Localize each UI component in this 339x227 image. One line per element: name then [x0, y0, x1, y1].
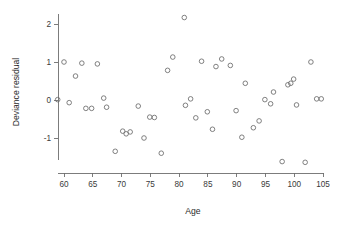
data-point — [291, 77, 296, 82]
data-point — [104, 105, 109, 110]
data-point — [199, 59, 204, 64]
x-tick-label: 65 — [88, 180, 98, 189]
data-point — [268, 102, 273, 107]
data-point — [165, 68, 170, 73]
y-tick-label: 0 — [46, 96, 51, 105]
data-point — [188, 97, 193, 102]
plot-canvas: -1012 6065707580859095100105 Age Devianc… — [0, 0, 339, 227]
data-point — [257, 119, 262, 124]
x-tick-label: 80 — [175, 180, 185, 189]
x-tick-label: 70 — [117, 180, 127, 189]
data-point — [101, 96, 106, 101]
data-point — [219, 57, 224, 62]
y-tick-label: 2 — [46, 20, 51, 29]
x-tick-label: 100 — [287, 180, 301, 189]
data-point — [142, 136, 147, 141]
data-point — [84, 106, 89, 111]
data-points-layer — [55, 15, 323, 164]
data-point — [319, 97, 324, 102]
data-point — [136, 104, 141, 109]
data-point — [62, 60, 67, 65]
data-point — [67, 100, 72, 105]
x-axis-title: Age — [185, 206, 201, 216]
x-tick-label: 105 — [316, 180, 330, 189]
data-point — [280, 159, 285, 164]
data-point — [214, 64, 219, 69]
scatter-plot-figure: -1012 6065707580859095100105 Age Devianc… — [0, 0, 339, 227]
data-point — [80, 61, 85, 66]
data-point — [240, 135, 245, 140]
data-point — [128, 130, 133, 135]
data-point — [89, 106, 94, 111]
data-point — [309, 60, 314, 65]
data-point — [194, 116, 199, 121]
x-tick-label: 90 — [232, 180, 242, 189]
x-tick-label: 60 — [59, 180, 69, 189]
data-point — [95, 62, 100, 67]
data-point — [152, 115, 157, 120]
data-point — [263, 97, 268, 102]
data-point — [210, 127, 215, 132]
data-point — [314, 97, 319, 102]
y-tick-label: 1 — [46, 58, 51, 67]
data-point — [73, 74, 78, 79]
data-point — [228, 63, 233, 68]
data-point — [251, 125, 256, 130]
x-tick-label: 95 — [261, 180, 271, 189]
data-point — [113, 149, 118, 154]
data-point — [294, 103, 299, 108]
y-axis-title: Deviance residual — [11, 58, 21, 126]
y-tick-label: -1 — [44, 134, 52, 143]
data-point — [159, 151, 164, 156]
data-point — [271, 90, 276, 95]
x-tick-label: 75 — [146, 180, 156, 189]
data-point — [182, 15, 187, 20]
data-point — [183, 103, 188, 108]
data-point — [243, 81, 248, 86]
data-point — [234, 108, 239, 113]
data-point — [205, 109, 210, 114]
data-point — [147, 115, 152, 120]
data-point — [170, 55, 175, 60]
data-point — [303, 160, 308, 165]
x-axis: 6065707580859095100105 — [58, 173, 330, 189]
y-axis: -1012 — [44, 14, 58, 160]
x-tick-label: 85 — [203, 180, 213, 189]
